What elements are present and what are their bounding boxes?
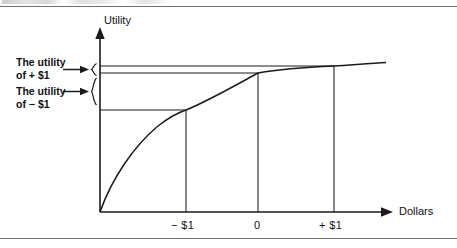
pointer-arrowhead-minus-one xyxy=(80,88,89,95)
y-axis-title: Utility xyxy=(104,14,131,26)
x-tick-label-zero: 0 xyxy=(254,219,261,231)
annotation-plus-one-line1: The utility xyxy=(16,56,66,69)
pointer-arrowhead-plus-one xyxy=(80,66,89,73)
x-axis xyxy=(100,207,393,216)
utility-curve-figure: Utility Dollars − $1 0 + $1 The utility … xyxy=(0,0,457,248)
x-axis-title: Dollars xyxy=(399,205,433,217)
brace-plus-one xyxy=(92,64,97,76)
utility-curve xyxy=(100,62,386,212)
y-axis-arrowhead xyxy=(95,27,104,39)
x-tick-label-minus-one: − $1 xyxy=(171,219,194,231)
annotation-plus-one-line2: of + $1 xyxy=(16,69,66,82)
annotation-plus-one: The utility of + $1 xyxy=(16,56,66,81)
guide-lines xyxy=(100,66,334,110)
x-axis-arrowhead xyxy=(381,207,393,216)
brace-minus-one xyxy=(92,78,97,105)
annotation-minus-one-line1: The utility xyxy=(16,85,66,98)
annotation-minus-one: The utility of − $1 xyxy=(16,85,66,110)
drop-lines xyxy=(186,66,334,212)
annotation-minus-one-line2: of − $1 xyxy=(16,98,66,111)
y-axis xyxy=(95,27,104,212)
x-tick-label-plus-one: + $1 xyxy=(319,219,342,231)
annotation-markers xyxy=(63,64,97,106)
plot-canvas xyxy=(0,0,457,248)
